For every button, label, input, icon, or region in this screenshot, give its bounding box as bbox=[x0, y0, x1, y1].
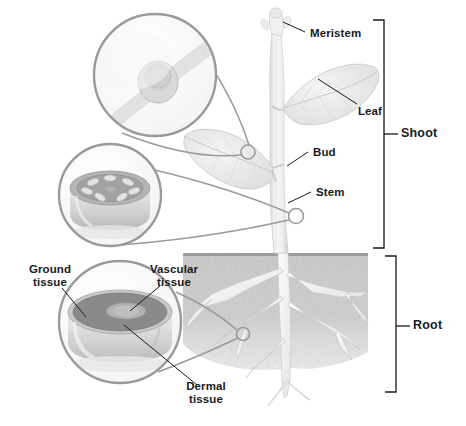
label-bud: Bud bbox=[313, 146, 336, 159]
label-shoot: Shoot bbox=[401, 127, 437, 140]
label-ground-tissue: Ground tissue bbox=[18, 263, 82, 289]
stem-target-marker[interactable] bbox=[289, 209, 304, 224]
vascular-tissue-line2: tissue bbox=[157, 276, 191, 288]
ground-tissue-line2: tissue bbox=[33, 276, 67, 288]
label-dermal-tissue: Dermal tissue bbox=[174, 380, 238, 406]
label-stem: Stem bbox=[316, 186, 345, 199]
label-root: Root bbox=[413, 319, 442, 332]
plant-anatomy-illustration bbox=[0, 0, 466, 426]
dermal-tissue-line2: tissue bbox=[189, 393, 223, 405]
ground-tissue-line1: Ground bbox=[29, 263, 71, 275]
vascular-tissue-line1: Vascular bbox=[150, 263, 198, 275]
stem-cross-section-inset[interactable] bbox=[59, 144, 161, 246]
dermal-tissue-line1: Dermal bbox=[186, 380, 226, 392]
label-meristem: Meristem bbox=[310, 27, 361, 40]
meristem-inset[interactable] bbox=[88, 14, 226, 138]
label-vascular-tissue: Vascular tissue bbox=[141, 263, 207, 289]
plant-stem bbox=[270, 32, 288, 253]
apical-meristem bbox=[261, 8, 291, 36]
label-leaf: Leaf bbox=[358, 105, 382, 118]
figure-canvas: Meristem Leaf Bud Stem Shoot Root Ground… bbox=[0, 0, 466, 426]
shoot-bracket bbox=[373, 20, 398, 248]
root-bracket bbox=[385, 256, 410, 392]
lower-leaf bbox=[184, 129, 284, 189]
